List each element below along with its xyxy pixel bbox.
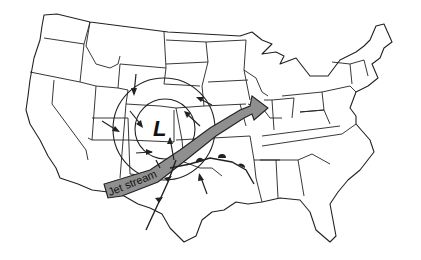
low-pressure-label: L: [153, 116, 166, 141]
weather-map: Jet stream L: [0, 0, 421, 260]
us-outline: [26, 14, 392, 242]
